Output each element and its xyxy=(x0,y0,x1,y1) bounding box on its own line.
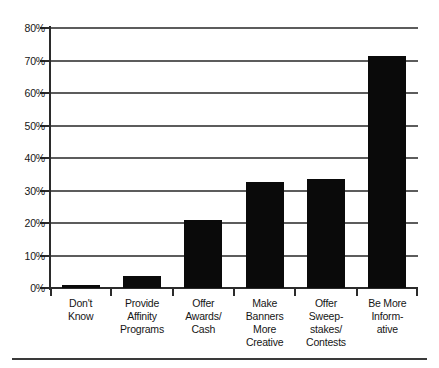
y-axis-tick-label: 40% xyxy=(5,153,45,164)
y-axis-tick-label: 80% xyxy=(5,23,45,34)
x-axis-label-line: Inform- xyxy=(357,310,418,323)
x-axis-label-line: Programs xyxy=(111,323,172,336)
x-axis-ticks xyxy=(50,288,418,296)
x-tick-mark xyxy=(294,288,296,296)
x-axis-label-line: stakes/ xyxy=(295,323,356,336)
x-axis-category-label: ProvideAffinityPrograms xyxy=(111,297,172,336)
x-axis-label-line: Offer xyxy=(173,297,234,310)
x-axis-label-line: Contests xyxy=(295,336,356,349)
y-axis-tick-label: 30% xyxy=(5,186,45,197)
y-axis-tick-label: 70% xyxy=(5,56,45,67)
x-tick-mark xyxy=(416,288,418,296)
x-tick-mark xyxy=(233,288,235,296)
x-axis-category-label: Don'tKnow xyxy=(50,297,111,323)
bottom-divider-rule xyxy=(12,358,427,360)
y-axis-tick-label: 20% xyxy=(5,218,45,229)
bar-chart-figure: Don'tKnowProvideAffinityProgramsOfferAwa… xyxy=(0,0,439,368)
x-axis-label-line: Awards/ xyxy=(173,310,234,323)
x-axis-label-line: Affinity xyxy=(111,310,172,323)
x-axis-label-line: Provide xyxy=(111,297,172,310)
x-axis-label-line: Cash xyxy=(173,323,234,336)
x-tick-mark xyxy=(50,288,52,296)
x-axis-labels: Don'tKnowProvideAffinityProgramsOfferAwa… xyxy=(50,297,418,353)
x-tick-mark xyxy=(110,288,112,296)
x-axis-label-line: Sweep- xyxy=(295,310,356,323)
y-axis-tick-label: 10% xyxy=(5,251,45,262)
y-axis-tick-label: 0% xyxy=(5,283,45,294)
x-axis-label-line: Be More xyxy=(357,297,418,310)
bars-layer xyxy=(50,28,418,288)
x-axis-label-line: ative xyxy=(357,323,418,336)
x-axis-category-label: OfferSweep-stakes/Contests xyxy=(295,297,356,349)
bar xyxy=(184,220,222,288)
x-axis-label-line: Make xyxy=(234,297,295,310)
x-axis-category-label: OfferAwards/Cash xyxy=(173,297,234,336)
bar xyxy=(246,182,284,288)
x-axis-label-line: More xyxy=(234,323,295,336)
x-axis-category-label: Be MoreInform-ative xyxy=(357,297,418,336)
y-axis-tick-label: 60% xyxy=(5,88,45,99)
x-axis-label-line: Creative xyxy=(234,336,295,349)
bar xyxy=(307,179,345,288)
x-axis-category-label: MakeBannersMoreCreative xyxy=(234,297,295,349)
x-axis-label-line: Don't xyxy=(50,297,111,310)
bar xyxy=(123,276,161,288)
x-tick-mark xyxy=(172,288,174,296)
x-axis-label-line: Banners xyxy=(234,310,295,323)
x-tick-mark xyxy=(356,288,358,296)
x-axis-label-line: Know xyxy=(50,310,111,323)
y-axis-tick-label: 50% xyxy=(5,121,45,132)
x-axis-label-line: Offer xyxy=(295,297,356,310)
bar xyxy=(368,56,406,288)
